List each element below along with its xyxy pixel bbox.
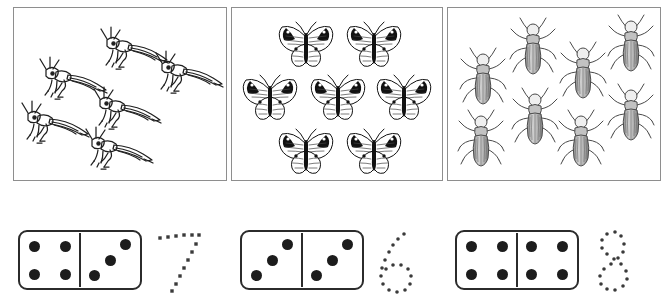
domino-pip [105, 255, 116, 266]
domino-pip [267, 255, 278, 266]
domino-pip [311, 270, 322, 281]
domino-half-left [457, 232, 517, 288]
domino-half-left [20, 232, 80, 288]
butterfly-icon [306, 71, 370, 123]
domino-pip [120, 239, 131, 250]
domino-pip [60, 241, 71, 252]
domino-half-left [242, 232, 302, 288]
domino-pip [497, 241, 508, 252]
domino-pip [251, 270, 262, 281]
butterfly-icon [238, 71, 302, 123]
domino-tile[interactable] [18, 230, 142, 290]
domino-pip [60, 269, 71, 280]
traced-numeral-eight[interactable] [585, 222, 645, 299]
domino-pip [466, 269, 477, 280]
beetle-icon [560, 40, 606, 102]
beetle-icon [458, 108, 504, 170]
traced-numeral-six[interactable] [368, 222, 428, 299]
grasshopper-icon [84, 126, 156, 174]
domino-half-right [80, 232, 140, 288]
domino-pip [526, 269, 537, 280]
domino-pip [497, 269, 508, 280]
domino-pip [282, 239, 293, 250]
beetles-box [447, 7, 661, 181]
picture-row [13, 7, 661, 181]
butterfly-icon [274, 18, 338, 70]
domino-pip [557, 241, 568, 252]
grasshoppers-box [13, 7, 227, 181]
domino-pip [89, 270, 100, 281]
domino-tile[interactable] [240, 230, 364, 290]
beetle-icon [510, 16, 556, 78]
butterflies-box [231, 7, 443, 181]
beetle-icon [608, 13, 654, 75]
domino-pip [342, 239, 353, 250]
domino-pip [466, 241, 477, 252]
butterfly-icon [274, 125, 338, 177]
answer-row [0, 222, 672, 299]
domino-pip [526, 241, 537, 252]
domino-pip [557, 269, 568, 280]
domino-tile[interactable] [455, 230, 579, 290]
beetle-icon [512, 86, 558, 148]
domino-pip [327, 255, 338, 266]
butterfly-icon [342, 18, 406, 70]
domino-pip [29, 269, 40, 280]
grasshopper-icon [154, 50, 226, 98]
domino-half-right [517, 232, 577, 288]
domino-half-right [302, 232, 362, 288]
grasshopper-icon [20, 100, 92, 148]
butterfly-icon [372, 71, 436, 123]
traced-numeral-seven[interactable] [154, 222, 214, 299]
beetle-icon [558, 108, 604, 170]
beetle-icon [608, 82, 654, 144]
domino-pip [29, 241, 40, 252]
butterfly-icon [342, 125, 406, 177]
beetle-icon [460, 46, 506, 108]
